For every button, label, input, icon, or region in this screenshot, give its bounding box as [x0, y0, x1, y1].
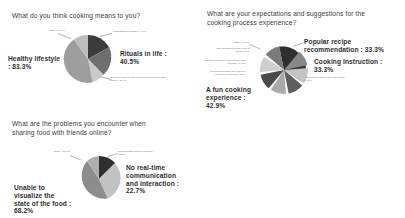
- chart-3-question: What are the problems you encounter when…: [12, 120, 167, 137]
- chart-2-label-other: Other : 14.3%: [218, 41, 250, 44]
- chart-panel-sharing-problems: What are the problems you encounter when…: [0, 106, 205, 218]
- chart-3-label-cannot-share: Cannot share food in real time : 13.6%: [118, 150, 158, 156]
- chart-2-pie: [258, 44, 310, 96]
- chart-2-label-remote-interaction: Remote interaction with others while coo…: [204, 59, 246, 65]
- chart-3-label-unable-visualize: Unable to visualize the state of the foo…: [14, 184, 72, 215]
- pie-svg-3: [74, 154, 124, 204]
- chart-1-label-healthy-lifestyle: Healthy lifestyle : 83.3%: [8, 55, 60, 71]
- chart-1-label-drawing-closer: Drawing closer to the emotional connecti…: [110, 76, 166, 82]
- chart-3-label-no-realtime: No real-time communication and interacti…: [126, 164, 186, 195]
- chart-2-label-record-share: Record and share the cooking process in …: [201, 70, 245, 76]
- chart-2-label-cooking-instruction: Cooking Instruction : 33.3%: [314, 58, 402, 74]
- chart-panel-cooking-expectations: What are your expectations and suggestio…: [200, 0, 405, 109]
- chart-1-label-sophisticated: Sophisticated Lifestyle : 19%: [113, 30, 151, 33]
- chart-2-label-popular-recipe: Popular recipe recommendation : 33.3%: [304, 38, 390, 54]
- chart-3-label-other: Other : 13.6%: [40, 150, 70, 153]
- chart-1-question: What do you think cooking means to you?: [12, 12, 192, 21]
- pie-svg-2: [258, 44, 310, 96]
- chart-1-label-rituals: Rituals in life : 40.5%: [120, 50, 170, 66]
- chart-panel-cooking-meaning: What do you think cooking means to you? …: [0, 0, 200, 104]
- chart-2-question: What are your expectations and suggestio…: [207, 10, 382, 27]
- chart-2-label-fun-experience: A fun cooking experience : 42.9%: [206, 86, 260, 109]
- chart-2-label-reminder-ingredients: Reminder of additional ingredients : 19%: [305, 76, 345, 82]
- chart-1-label-other: Other : 11.9%: [31, 29, 65, 32]
- chart-3-pie: [74, 154, 124, 204]
- chart-2-label-rituals-process: The cooking process is full of rituals :…: [212, 47, 250, 53]
